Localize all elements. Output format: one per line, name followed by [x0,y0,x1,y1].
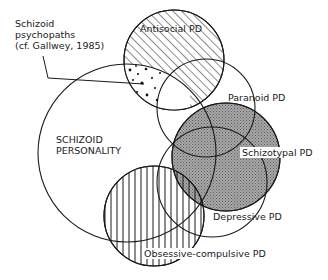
diagram-canvas: Schizoid psychopaths (cf. Gallwey, 1985)… [0,0,328,280]
label-line: (cf. Gallwey, 1985) [15,40,104,51]
depressive-label: Depressive PD [213,211,282,222]
schizoid-personality-label: SCHIZOID PERSONALITY [56,134,121,156]
schizotypal-label: Schizotypal PD [240,147,315,158]
obsessive-compulsive-label: Obsessive-compulsive PD [142,248,268,259]
label-line: SCHIZOID [56,134,121,145]
schizoid-psychopaths-label: Schizoid psychopaths (cf. Gallwey, 1985) [15,18,104,51]
label-line: PERSONALITY [56,145,121,156]
paranoid-label: Paranoid PD [228,92,285,103]
label-line: psychopaths [15,29,104,40]
label-line: Schizoid [15,18,104,29]
antisocial-label: Antisocial PD [140,23,202,34]
